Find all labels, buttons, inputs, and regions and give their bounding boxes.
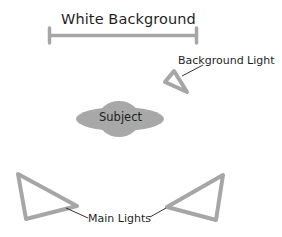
background-light-label: Background Light <box>178 55 275 66</box>
main-lights-label: Main Lights <box>88 213 151 224</box>
white-background-bar <box>49 28 197 43</box>
main-lights-leader-left <box>66 208 88 218</box>
lighting-diagram: White Background Background Light Subjec… <box>0 0 282 237</box>
main-light-left-triangle <box>18 174 77 219</box>
background-light-triangle <box>165 71 187 92</box>
main-lights-leader-right <box>150 208 166 217</box>
subject-label: Subject <box>99 112 142 124</box>
white-background-label: White Background <box>61 12 196 27</box>
main-light-right-triangle <box>167 175 223 220</box>
